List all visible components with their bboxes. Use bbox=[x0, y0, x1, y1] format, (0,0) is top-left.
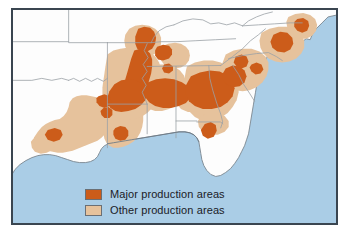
major-production-swatch bbox=[85, 189, 102, 200]
legend-item-other: Other production areas bbox=[85, 203, 225, 217]
legend-item-major: Major production areas bbox=[85, 187, 225, 201]
other-production-swatch bbox=[85, 205, 102, 216]
map-canvas: Major production areas Other production … bbox=[11, 8, 338, 225]
legend-label-other: Other production areas bbox=[110, 204, 225, 216]
major-region-south-louisiana bbox=[113, 126, 128, 141]
map-figure: Major production areas Other production … bbox=[0, 0, 349, 235]
legend-label-major: Major production areas bbox=[110, 188, 225, 200]
map-legend: Major production areas Other production … bbox=[85, 187, 225, 217]
